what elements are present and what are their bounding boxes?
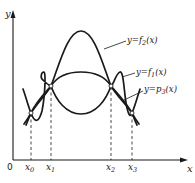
node-drop-lines: [31, 87, 132, 160]
tick-label-x3: x3: [128, 162, 137, 174]
tick-label-x0: x0: [25, 162, 34, 174]
tick-label-x1: x1: [46, 162, 55, 174]
interpolation-diagram: y x 0 x0 x1 x2 x3 y=f2(x) y=f1(x) y=p3(x…: [0, 0, 195, 183]
node-marker-x2: [109, 84, 113, 88]
node-marker-x3: [130, 111, 134, 115]
x-axis-label: x: [187, 163, 193, 174]
curve-label-p3: y=p3(x): [143, 84, 177, 96]
leader-f2: [104, 41, 126, 49]
node-marker-x1: [49, 84, 53, 88]
x-axis-arrow-icon: [180, 158, 188, 163]
node-marker-x0: [29, 111, 33, 115]
y-axis-label: y: [4, 8, 11, 19]
leader-p3: [124, 91, 143, 100]
tick-label-x2: x2: [106, 162, 115, 174]
y-axis-arrow-icon: [11, 10, 16, 18]
curve-label-f1: y=f1(x): [135, 67, 167, 79]
curve-f1: [23, 72, 140, 120]
leader-f1: [122, 73, 135, 77]
curve-label-f2: y=f2(x): [126, 35, 158, 47]
origin-label: 0: [7, 162, 13, 172]
